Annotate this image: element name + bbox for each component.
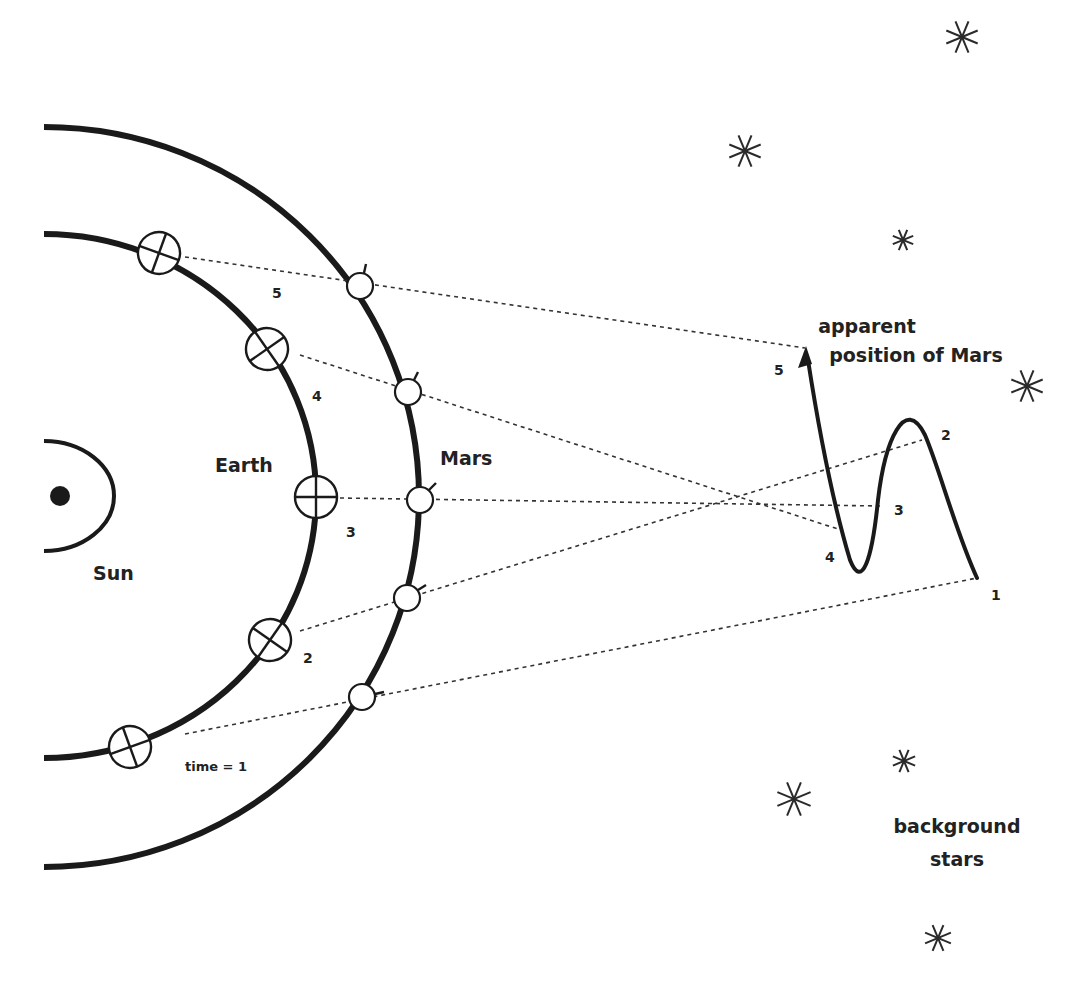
star-icon <box>1011 370 1042 401</box>
star-icon <box>777 782 810 815</box>
background-stars <box>729 21 1042 951</box>
earth-icon-1 <box>103 720 157 774</box>
mars-label: Mars <box>440 447 492 469</box>
earth-number-2: 2 <box>303 650 313 666</box>
mars-icon-1 <box>349 684 384 710</box>
apparent-number-3: 3 <box>894 502 904 518</box>
earth-number-4: 4 <box>312 388 322 404</box>
star-icon <box>925 925 951 951</box>
apparent-number-5: 5 <box>774 362 784 378</box>
mars-icon-3 <box>407 483 436 513</box>
star-icon <box>946 21 977 52</box>
star-icon <box>893 230 913 250</box>
apparent-label-line2: position of Mars <box>829 344 1003 366</box>
apparent-number-4: 4 <box>825 549 835 565</box>
sight-line-4 <box>300 355 841 530</box>
apparent-number-2: 2 <box>941 427 951 443</box>
retrograde-motion-diagram: Sun Earth Mars apparent position of Mars… <box>0 0 1079 986</box>
earth-label: Earth <box>215 454 273 476</box>
apparent-path <box>808 360 977 578</box>
earth-number-5: 5 <box>272 285 282 301</box>
background-stars-label-line2: stars <box>930 848 984 870</box>
earth-icon-5 <box>132 226 186 280</box>
earth-number-3: 3 <box>346 524 356 540</box>
sun-label: Sun <box>93 562 134 584</box>
mars-icon-5 <box>347 264 373 299</box>
star-icon <box>893 750 915 772</box>
earth-icon-2 <box>241 611 299 669</box>
time-label: time = 1 <box>185 759 247 774</box>
mars-icon-2 <box>394 585 426 611</box>
background-stars-label-line1: background <box>894 815 1021 837</box>
sun-icon <box>50 486 70 506</box>
earth-positions <box>103 226 337 774</box>
apparent-label-line1: apparent <box>818 315 916 337</box>
star-icon <box>729 135 760 166</box>
earth-icon-4 <box>238 320 296 378</box>
earth-icon-3 <box>295 476 337 518</box>
earth-orbit <box>44 234 316 758</box>
apparent-number-1: 1 <box>991 587 1001 603</box>
